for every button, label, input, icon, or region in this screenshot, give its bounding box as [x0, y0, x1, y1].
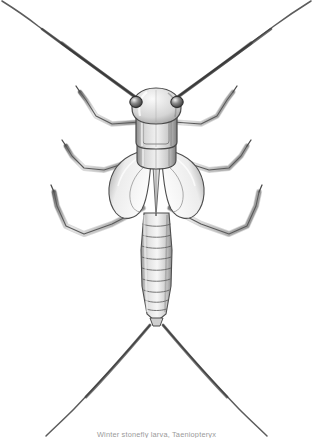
abdomen	[141, 213, 172, 326]
right-eye	[171, 96, 183, 107]
left-eye	[130, 96, 142, 107]
stonefly-illustration	[0, 0, 313, 438]
figure-caption: Winter stonefly larva, Taeniopteryx	[0, 430, 313, 438]
left-cercus	[46, 325, 150, 436]
left-antenna	[2, 1, 146, 105]
right-antenna	[167, 1, 311, 105]
right-cercus	[163, 325, 267, 436]
illustration-plate: Winter stonefly larva, Taeniopteryx	[0, 0, 313, 438]
